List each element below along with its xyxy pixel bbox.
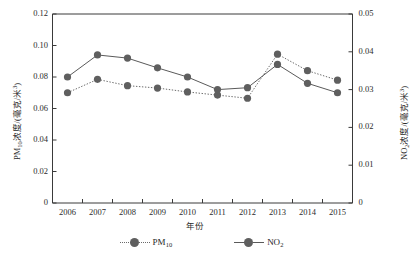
legend-label-pm10-sub: 10 [166,241,173,248]
series-line-no2 [68,55,338,93]
legend-item-pm10[interactable]: PM10 [120,237,173,247]
data-point-no2-2009 [154,64,161,71]
y-axis-left-title-sup: 3 [398,89,405,92]
data-point-pm10-2013 [274,51,281,58]
legend-label-pm10: PM10 [153,237,173,247]
y-tick-label-left-4: 0.08 [6,72,48,81]
y-tick-label-right-2: 0.02 [359,122,403,131]
y-axis-left-title-rest: 浓度/(毫克/米 [399,92,409,145]
y-axis-left-title-sub: 2 [403,145,410,148]
y-tick-label-right-5: 0.05 [359,9,403,18]
y-axis-left-title-main: PM [12,148,22,160]
data-point-no2-2008 [124,55,131,62]
y-axis-left-title-rest: 浓度/(毫克/米 [12,89,22,142]
y-axis-left-title-main: NO [399,148,409,160]
legend-item-no2[interactable]: NO2 [234,237,283,247]
y-tick-label-right-4: 0.04 [359,47,403,56]
data-point-pm10-2014 [304,67,311,74]
chart-legend: PM10 NO2 [0,232,403,252]
y-tick-label-left-6: 0.12 [6,9,48,18]
legend-marker-pm10 [120,238,150,247]
data-point-no2-2012 [244,84,251,91]
data-point-pm10-2012 [244,95,251,102]
legend-label-no2-sub: 2 [280,241,283,248]
y-tick-label-right-1: 0.01 [359,160,403,169]
data-point-pm10-2010 [184,88,191,95]
data-point-no2-2011 [214,86,221,93]
legend-label-no2-main: NO [267,237,280,247]
y-tick-label-left-5: 0.10 [6,41,48,50]
y-tick-label-left-0: 0 [6,198,48,207]
data-point-no2-2014 [304,80,311,87]
legend-label-no2: NO2 [267,237,283,247]
legend-label-pm10-main: PM [153,237,166,247]
y-axis-left-title-sub: 10 [16,141,23,147]
y-axis-left-title-sup: 3 [11,86,18,89]
data-point-no2-2010 [184,73,191,80]
x-tick-label-9: 2015 [318,208,358,217]
data-point-no2-2013 [274,61,281,68]
data-point-no2-2015 [334,89,341,96]
data-point-pm10-2006 [64,89,71,96]
data-point-pm10-2008 [124,82,131,89]
data-point-pm10-2007 [94,76,101,83]
y-tick-label-left-1: 0.02 [6,167,48,176]
legend-marker-no2 [234,238,264,247]
y-axis-right-title: NO2浓度/(毫克/米3) [397,86,409,160]
data-point-no2-2006 [64,73,71,80]
y-axis-left-title: PM10浓度/(毫克/米3) [10,83,22,160]
y-tick-label-right-0: 0 [359,198,403,207]
data-point-no2-2007 [94,51,101,58]
data-point-pm10-2015 [334,77,341,84]
y-tick-label-right-3: 0.03 [359,85,403,94]
x-axis-title: 年份 [186,219,204,231]
data-point-pm10-2009 [154,84,161,91]
